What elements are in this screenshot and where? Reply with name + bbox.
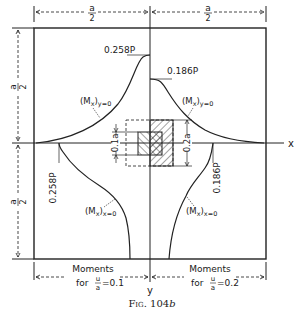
lower-left-peak-label: 0.258P — [48, 172, 58, 204]
upper-left-curve-label: (Mx)y=0 — [80, 96, 111, 108]
bottom-right-for: for — [191, 278, 204, 288]
lower-right-peak-label: 0.186P — [212, 162, 222, 194]
bottom-right-frac-num: u — [211, 275, 215, 283]
left-bottom-dim-den: 2 — [19, 199, 28, 204]
curve-upper-left: 0.258P (Mx)y=0 — [36, 45, 150, 143]
top-left-dim-num: a — [89, 3, 95, 13]
top-right-dim-num: a — [205, 3, 211, 13]
lower-left-curve-label: (Mx)x=0 — [85, 206, 116, 218]
upper-right-curve-label: (Mx)y=0 — [182, 96, 213, 108]
y-axis-label: y — [147, 285, 153, 296]
bottom-left-frac-num: u — [96, 275, 100, 283]
bottom-left-for: for — [76, 278, 89, 288]
left-bottom-dim-num: a — [8, 199, 18, 205]
bottom-right-line1: Moments — [189, 264, 231, 274]
curve-lower-left: 0.258P (Mx)x=0 — [48, 143, 130, 259]
figure-104b: a 2 a 2 a 2 a 2 x y — [0, 0, 306, 327]
left-top-dim-num: a — [8, 84, 18, 90]
top-dimension: a 2 a 2 — [34, 3, 266, 23]
figure-caption: Fig. 104b — [128, 298, 175, 309]
upper-right-peak-label: 0.186P — [167, 66, 199, 76]
inner-square-dim: 0.1a — [110, 134, 120, 153]
outer-square-dim: 0.2a — [182, 134, 192, 153]
bottom-left-value: =0.1 — [102, 278, 124, 288]
curve-lower-right: 0.186P (Mx)x=0 — [169, 143, 222, 259]
bottom-right-value: =0.2 — [217, 278, 239, 288]
top-left-dim-den: 2 — [89, 14, 94, 23]
bottom-left-frac-den: a — [96, 284, 100, 292]
upper-left-peak-label: 0.258P — [104, 45, 136, 55]
x-axis-label: x — [288, 138, 294, 149]
left-top-dim-den: 2 — [19, 84, 28, 89]
bottom-left-line1: Moments — [72, 264, 114, 274]
top-right-dim-den: 2 — [205, 14, 210, 23]
lower-right-curve-label: (Mx)x=0 — [186, 206, 217, 218]
bottom-right-frac-den: a — [211, 284, 215, 292]
